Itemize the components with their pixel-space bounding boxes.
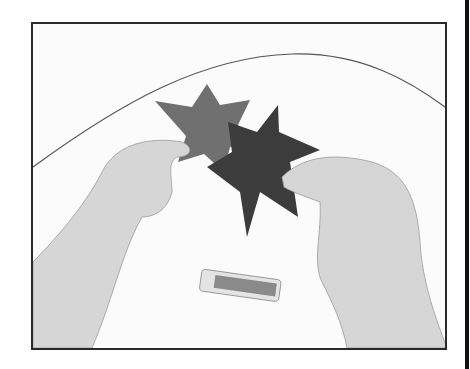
photo-illustration bbox=[33, 24, 445, 348]
photo-frame bbox=[31, 22, 447, 350]
glue-stick bbox=[199, 269, 281, 302]
right-hand bbox=[282, 157, 445, 348]
left-hand bbox=[33, 140, 190, 348]
page-edge-bar bbox=[465, 0, 469, 369]
